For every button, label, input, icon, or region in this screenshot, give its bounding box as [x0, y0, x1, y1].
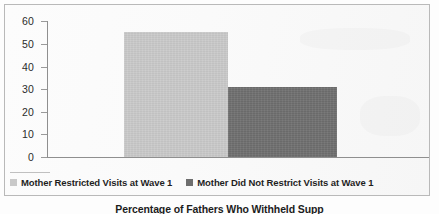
ytick-label: 0: [8, 151, 34, 163]
bar-texture: [124, 32, 228, 157]
ytick-0: 0: [8, 151, 34, 163]
ytick-label: 10: [8, 128, 34, 140]
ytick-30: 30: [8, 83, 34, 95]
ytick-label: 30: [8, 83, 34, 95]
ytick-20: 20: [8, 106, 34, 118]
legend-item-mother-restricted[interactable]: Mother Restricted Visits at Wave 1: [10, 177, 172, 188]
legend-swatch-icon: [186, 179, 193, 186]
ytick-label: 40: [8, 61, 34, 73]
ytick-label: 50: [8, 38, 34, 50]
ytick-10: 10: [8, 128, 34, 140]
ytick-50: 50: [8, 38, 34, 50]
bar-mother-did-not-restrict[interactable]: [228, 87, 337, 157]
ytick-60: 60: [8, 15, 34, 27]
legend-swatch-icon: [10, 179, 17, 186]
legend-rule: [10, 172, 50, 173]
y-axis-line: [47, 21, 48, 157]
legend-item-mother-did-not-restrict[interactable]: Mother Did Not Restrict Visits at Wave 1: [186, 177, 373, 188]
legend: Mother Restricted Visits at Wave 1 Mothe…: [10, 177, 373, 188]
ytick-label: 60: [8, 15, 34, 27]
bar-mother-restricted[interactable]: [124, 32, 228, 157]
figure: 60 50 40 30 20 10 0: [0, 0, 439, 214]
legend-item-label: Mother Did Not Restrict Visits at Wave 1: [197, 177, 373, 188]
x-axis-line: [47, 157, 429, 158]
bar-texture: [228, 87, 337, 157]
ytick-40: 40: [8, 61, 34, 73]
figure-caption: Percentage of Fathers Who Withheld Supp: [0, 203, 439, 214]
legend-item-label: Mother Restricted Visits at Wave 1: [21, 177, 172, 188]
ytick-label: 20: [8, 106, 34, 118]
